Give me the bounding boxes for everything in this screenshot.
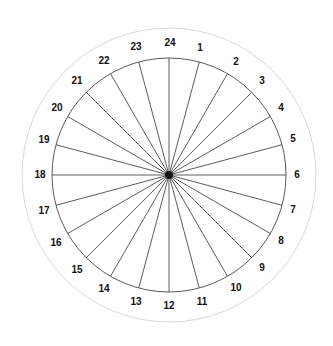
tick-label-11: 11 [197,297,208,307]
spoke-line-10 [169,175,228,276]
tick-label-19: 19 [38,135,49,145]
tick-label-10: 10 [230,283,241,293]
spoke-line-2 [169,74,228,175]
spoke-line-3 [169,92,252,175]
tick-label-12: 12 [163,301,174,311]
tick-label-1: 1 [197,43,203,53]
spoke-line-14 [111,175,170,276]
tick-label-7: 7 [290,205,296,215]
spoke-line-8 [169,175,270,234]
spoke-line-9 [169,175,252,258]
spoke-line-11 [169,175,199,288]
dial-svg [0,0,333,346]
spoke-line-22 [111,74,170,175]
tick-label-24: 24 [164,38,175,48]
center-dot [165,171,173,179]
spoke-line-20 [68,117,169,176]
spoke-line-1 [169,62,199,175]
center-hub-dot-icon [165,171,173,179]
tick-label-2: 2 [233,57,239,67]
spoke-line-4 [169,117,270,176]
tick-label-4: 4 [278,103,284,113]
spoke-line-17 [56,175,169,205]
tick-label-18: 18 [34,170,45,180]
spoke-line-5 [169,145,282,175]
tick-label-9: 9 [259,263,265,273]
tick-label-8: 8 [278,236,284,246]
spoke-line-16 [68,175,169,234]
spoke-line-15 [86,175,169,258]
tick-label-14: 14 [98,284,109,294]
tick-label-6: 6 [294,170,300,180]
tick-label-17: 17 [38,206,49,216]
tick-label-3: 3 [259,76,265,86]
tick-label-23: 23 [130,42,141,52]
tick-label-15: 15 [71,265,82,275]
spoke-line-13 [139,175,169,288]
tick-label-16: 16 [50,238,61,248]
spoke-line-23 [139,62,169,175]
tick-label-13: 13 [130,297,141,307]
spoke-line-19 [56,145,169,175]
tick-label-20: 20 [51,103,62,113]
tick-label-22: 22 [98,56,109,66]
spoke-line-21 [86,92,169,175]
tick-label-21: 21 [71,76,82,86]
spoke-line-7 [169,175,282,205]
radial-dial-diagram: 123456789101112131415161718192021222324 [0,0,333,346]
tick-label-5: 5 [290,134,296,144]
